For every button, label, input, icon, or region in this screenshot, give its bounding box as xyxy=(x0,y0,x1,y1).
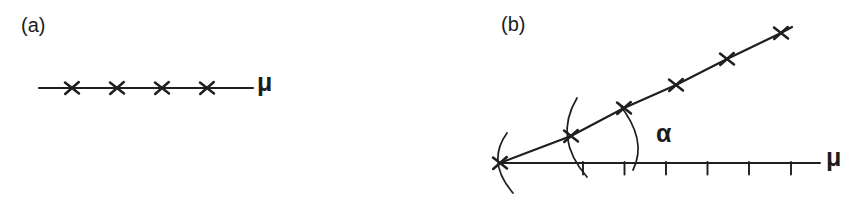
panel-a-mu-axis-label: μ xyxy=(257,70,272,95)
panel-b-alpha-angle-label: α xyxy=(656,121,671,146)
panel-b-label: (b) xyxy=(501,14,525,34)
panel-b-data-point-marker xyxy=(617,102,631,114)
panel-b-data-point-marker xyxy=(564,130,578,142)
angle-arc xyxy=(619,104,638,170)
figure: (a) μ (b) μ α xyxy=(0,0,854,202)
panel-b-data-point-marker xyxy=(669,79,683,91)
panel-a-label: (a) xyxy=(21,15,45,35)
panel-b-data-point-marker xyxy=(774,27,788,39)
panel-a-drawing xyxy=(39,82,253,94)
panel-b-data-point-marker xyxy=(720,53,734,65)
panel-b-drawing xyxy=(493,27,820,193)
panel-b-data-line xyxy=(500,27,792,163)
panel-b-mu-axis-label: μ xyxy=(826,145,841,170)
figure-canvas xyxy=(0,0,854,202)
